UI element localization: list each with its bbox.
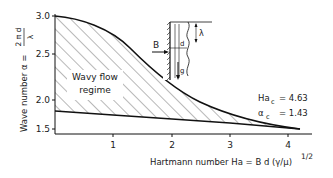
x-tick-1: 1 bbox=[110, 140, 116, 150]
svg-text:c: c bbox=[271, 98, 275, 106]
region-label-line1: Wavy flow bbox=[72, 72, 118, 82]
svg-text:α: α bbox=[258, 108, 264, 118]
inset-schematic: B d g λ bbox=[152, 20, 212, 80]
critical-values: Ha c = 4.63 α c = 1.43 bbox=[258, 93, 308, 121]
inset-label-d: d bbox=[180, 40, 184, 48]
svg-text:c: c bbox=[266, 113, 270, 121]
y-tick-1.5: 1.5 bbox=[36, 124, 50, 134]
svg-text:= 1.43: = 1.43 bbox=[279, 108, 308, 118]
inset-label-g: g bbox=[180, 67, 184, 75]
y-label-numerator: 2 π d bbox=[14, 27, 23, 46]
x-axis-label: Hartmann number Ha = B d (γ/μ) bbox=[150, 157, 292, 167]
x-tick-4: 4 bbox=[285, 140, 291, 150]
svg-text:= 4.63: = 4.63 bbox=[279, 93, 308, 103]
y-tick-2.0: 2.0 bbox=[36, 95, 51, 105]
y-axis-label: Wave number α = 2 π d λ bbox=[14, 27, 35, 132]
wavenumber-chart: 3.0 2.5 2.0 1.5 1 2 3 4 Hartmann number … bbox=[0, 0, 333, 178]
x-tick-2: 2 bbox=[169, 140, 175, 150]
x-axis-label-exponent: 1/2 bbox=[301, 152, 313, 161]
y-label-denominator: λ bbox=[26, 34, 35, 39]
inset-label-B: B bbox=[153, 40, 159, 50]
svg-text:Ha: Ha bbox=[258, 93, 270, 103]
inset-label-lambda: λ bbox=[199, 29, 204, 38]
y-tick-2.5: 2.5 bbox=[36, 49, 50, 59]
region-label-line2: regime bbox=[79, 85, 111, 95]
svg-text:Wave number α =: Wave number α = bbox=[19, 55, 29, 132]
x-tick-3: 3 bbox=[227, 140, 233, 150]
y-tick-3.0: 3.0 bbox=[36, 11, 51, 21]
